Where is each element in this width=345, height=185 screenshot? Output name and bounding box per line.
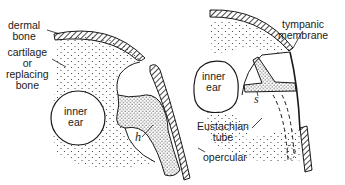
label-s: s xyxy=(254,94,259,105)
label-cartilage: cartilage or replacing bone xyxy=(6,47,49,91)
label-line: bone xyxy=(6,80,49,91)
label-line: membrane xyxy=(278,30,328,41)
label-eustachian-tube: Eustachian tube xyxy=(197,121,249,143)
label-line: ear xyxy=(64,117,87,128)
label-h: h xyxy=(135,132,141,143)
label-line: ear xyxy=(202,82,225,93)
label-inner-ear-left: inner ear xyxy=(64,106,87,128)
label-line: tube xyxy=(197,132,249,143)
label-opercular: opercular xyxy=(203,152,247,163)
stapes xyxy=(244,57,296,92)
label-tympanic-membrane: tympanic membrane xyxy=(278,19,328,41)
label-dermal-bone: dermal bone xyxy=(8,20,40,42)
label-line: bone xyxy=(8,31,40,42)
lower-jaw-right xyxy=(300,126,312,172)
label-inner-ear-right: inner ear xyxy=(202,71,225,93)
